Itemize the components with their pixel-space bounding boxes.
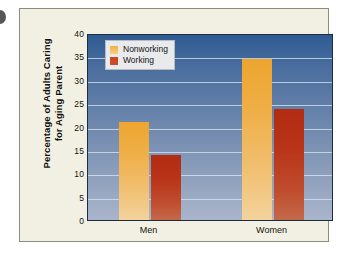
- y-axis-tick-label: 10: [74, 170, 84, 179]
- legend-item-working: Working: [110, 55, 168, 66]
- page-edge-mark: [0, 10, 6, 24]
- y-axis-tick-label: 25: [74, 100, 84, 109]
- y-axis-tick-label: 15: [74, 147, 84, 156]
- plot-wrapper: Nonworking Working: [87, 34, 333, 221]
- y-axis-title: Percentage of Adults Caring for Aging Pa…: [41, 9, 64, 199]
- bar-women-working: [274, 109, 304, 220]
- y-axis-tick-labels: 0510152025303540: [62, 34, 84, 221]
- gridline: [88, 105, 332, 106]
- legend-label-working: Working: [123, 55, 154, 66]
- chart-legend: Nonworking Working: [105, 40, 175, 70]
- y-axis-tick-label: 35: [74, 53, 84, 62]
- x-axis-tick-label: Men: [140, 225, 158, 235]
- bar-women-nonworking: [242, 59, 272, 220]
- gridline: [88, 82, 332, 83]
- legend-swatch-working: [110, 57, 118, 65]
- y-axis-tick-label: 5: [79, 193, 84, 202]
- bar-men-working: [151, 155, 181, 220]
- legend-label-nonworking: Nonworking: [123, 44, 168, 55]
- bar-men-nonworking: [119, 122, 149, 220]
- y-axis-tick-label: 0: [79, 217, 84, 226]
- y-axis-tick-label: 30: [74, 77, 84, 86]
- legend-item-nonworking: Nonworking: [110, 44, 168, 55]
- legend-swatch-nonworking: [110, 46, 118, 54]
- x-axis-tick-label: Women: [256, 225, 287, 235]
- chart-figure: Percentage of Adults Caring for Aging Pa…: [0, 0, 339, 253]
- y-axis-tick-label: 40: [74, 30, 84, 39]
- x-axis-tick-labels: MenWomen: [87, 225, 333, 239]
- y-axis-title-line-1: Percentage of Adults Caring: [41, 9, 53, 199]
- chart-frame: Percentage of Adults Caring for Aging Pa…: [19, 8, 329, 242]
- y-axis-tick-label: 20: [74, 123, 84, 132]
